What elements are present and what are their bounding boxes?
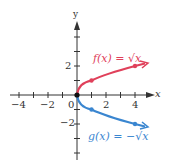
tick-label-x4: 4 (132, 99, 138, 110)
tick-label-x2: 2 (103, 99, 109, 110)
tick-label-ym2: −2 (60, 117, 75, 128)
y-arrow-icon (74, 21, 80, 30)
g-point (89, 107, 93, 111)
x-axis-label: x (155, 88, 161, 99)
y-axis-label: y (73, 9, 78, 19)
x-arrow-icon (146, 92, 155, 98)
g-label: g(x) = −√x (88, 130, 148, 143)
tick-label-xm4: −4 (11, 99, 26, 110)
f-curve (77, 64, 145, 96)
tick-label-xm2: −2 (40, 99, 55, 110)
f-point (89, 78, 93, 82)
g-point (133, 122, 137, 126)
f-label: f(x) = √x (93, 52, 141, 65)
origin-label: 0 (68, 99, 74, 110)
tick-label-y2: 2 (65, 60, 71, 71)
origin-point (74, 92, 79, 97)
